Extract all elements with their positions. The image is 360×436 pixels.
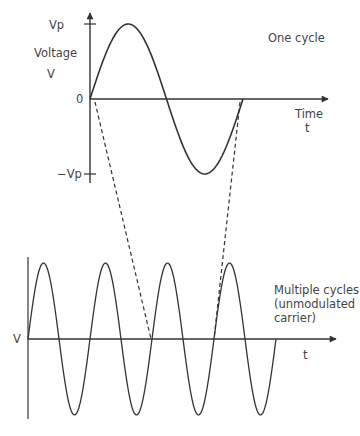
right-projection-line bbox=[214, 102, 240, 339]
vp-label: Vp bbox=[49, 18, 64, 32]
sine-wave-diagram bbox=[0, 0, 360, 436]
one-cycle-title: One cycle bbox=[268, 31, 325, 45]
bottom-axes bbox=[28, 257, 336, 419]
bottom-voltage-label: V bbox=[13, 332, 21, 346]
voltage-symbol-label: V bbox=[47, 67, 55, 81]
neg-vp-label: −Vp bbox=[57, 167, 82, 181]
time-label: Time bbox=[295, 107, 323, 121]
multiple-cycles-title: Multiple cycles (unmodulated carrier) bbox=[274, 283, 359, 325]
time-symbol-label: t bbox=[305, 121, 310, 135]
left-projection-line bbox=[95, 102, 151, 339]
voltage-label: Voltage bbox=[34, 46, 77, 60]
bottom-time-label: t bbox=[303, 348, 308, 362]
zero-label: 0 bbox=[76, 92, 83, 106]
